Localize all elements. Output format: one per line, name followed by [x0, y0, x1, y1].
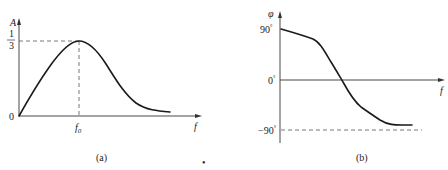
stray-mark: •: [202, 157, 206, 168]
panel-b-y-tick-90: 90°: [260, 24, 273, 35]
panel-a-origin-label: 0: [9, 111, 14, 122]
panel-a-y-arrow-icon: [17, 18, 21, 25]
panel-b-caption: (b): [356, 152, 368, 164]
panel-b-phase-chart: φ 90° 0° −90° f (b): [258, 8, 445, 164]
panel-a-y-tick-denominator: 3: [9, 40, 14, 51]
panel-a-y-axis-label: A: [9, 17, 17, 28]
panel-a-amplitude-chart: A 1 3 0 f0 f (a): [7, 17, 202, 164]
panel-b-y-tick-0: 0°: [268, 75, 276, 86]
panel-b-phase-curve: [281, 29, 412, 125]
figure: A 1 3 0 f0 f (a) • φ 90° 0° −90° f (b): [0, 0, 448, 170]
panel-b-y-axis-label: φ: [268, 8, 274, 19]
panel-a-amplitude-curve: [19, 41, 170, 116]
panel-b-y-tick-neg90: −90°: [258, 125, 277, 136]
panel-a-x-tick-f0: f0: [75, 122, 82, 135]
panel-b-x-axis-label: f: [440, 85, 444, 96]
panel-a-x-arrow-icon: [195, 114, 202, 118]
panel-a-x-axis-label: f: [194, 121, 198, 132]
panel-b-x-arrow-icon: [438, 78, 445, 82]
panel-a-y-tick-numerator: 1: [9, 28, 14, 39]
panel-a-caption: (a): [96, 152, 107, 164]
panel-b-y-arrow-icon: [278, 11, 282, 18]
